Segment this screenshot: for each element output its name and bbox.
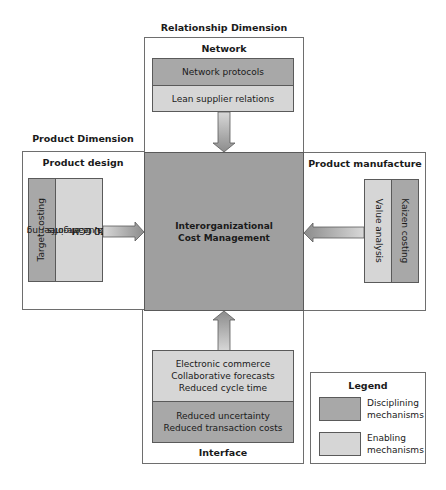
- central-cost-management-box: Interorganizational Cost Management: [144, 152, 304, 311]
- arrow-up-icon: [212, 310, 236, 351]
- reduced-cycle-time-label: Reduced cycle time: [179, 382, 267, 394]
- legend-disciplining-line-1: Disciplining: [367, 397, 424, 409]
- network-protocols-box: Network protocols: [152, 58, 294, 86]
- legend-swatch-enabling: [319, 432, 361, 456]
- legend-disciplining-line-2: mechanisms: [367, 409, 424, 421]
- network-panel-title: Network: [144, 43, 304, 54]
- legend-title: Legend: [310, 380, 426, 391]
- legend-swatch-disciplining: [319, 397, 361, 421]
- lean-supplier-relations-box: Lean supplier relations: [152, 85, 294, 112]
- interface-title: Interface: [142, 447, 304, 458]
- value-engineering-label: Value engineering FPQ trade-offs ICI, CC…: [62, 189, 97, 270]
- kaizen-costing-label: Kaizen costing: [399, 198, 411, 263]
- legend-enabling-line-1: Enabling: [367, 432, 424, 444]
- reduced-transaction-costs-label: Reduced transaction costs: [164, 422, 283, 434]
- collaborative-forecasts-label: Collaborative forecasts: [171, 370, 275, 382]
- central-label: Interorganizational Cost Management: [175, 220, 273, 244]
- central-label-line-2: Cost Management: [175, 232, 273, 244]
- arrow-left-icon: [303, 223, 365, 243]
- central-label-line-1: Interorganizational: [175, 220, 273, 232]
- value-analysis-box: Value analysis: [364, 179, 392, 283]
- value-engineering-box: Value engineering FPQ trade-offs ICI, CC…: [55, 178, 103, 282]
- electronic-commerce-label: Electronic commerce: [176, 358, 271, 370]
- relationship-dimension-title: Relationship Dimension: [144, 22, 304, 33]
- legend-enabling-line-2: mechanisms: [367, 444, 424, 456]
- kaizen-costing-box: Kaizen costing: [391, 179, 419, 283]
- product-design-title: Product design: [22, 157, 144, 168]
- reduced-uncertainty-label: Reduced uncertainty: [176, 410, 270, 422]
- legend-label-disciplining: Disciplining mechanisms: [367, 397, 424, 421]
- product-dimension-title: Product Dimension: [22, 133, 144, 144]
- lean-supplier-relations-label: Lean supplier relations: [172, 93, 274, 105]
- legend-label-enabling: Enabling mechanisms: [367, 432, 424, 456]
- arrow-down-icon: [212, 112, 236, 153]
- arrow-right-icon: [103, 222, 145, 242]
- product-manufacture-title: Product manufacture: [304, 158, 426, 169]
- interface-enabling-box: Electronic commerce Collaborative foreca…: [152, 350, 294, 402]
- value-analysis-label: Value analysis: [372, 199, 384, 263]
- network-protocols-label: Network protocols: [182, 66, 264, 78]
- interface-disciplining-box: Reduced uncertainty Reduced transaction …: [152, 401, 294, 443]
